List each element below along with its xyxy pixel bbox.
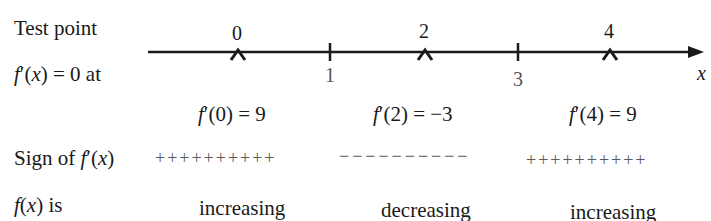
sign-interval-1: ++++++++++ [155,148,277,169]
test-point-2: 2 [419,20,429,43]
test-point-4: 4 [604,20,614,43]
sign-interval-3: ++++++++++ [526,150,648,171]
derivative-value-4: f′(4) = 9 [569,102,637,127]
test-point-0: 0 [232,22,242,45]
critical-point-1: 1 [325,64,335,87]
axis-variable-x: x [697,62,706,85]
derivative-value-0: f′(0) = 9 [198,102,266,127]
critical-point-3: 3 [513,68,523,91]
derivative-value-2: f′(2) = −3 [373,102,453,127]
behavior-interval-2: decreasing [381,198,471,221]
arrow-head-icon [688,46,704,58]
sign-interval-2: −−−−−−−−−− [339,146,471,167]
behavior-interval-1: increasing [199,196,285,221]
behavior-interval-3: increasing [570,200,656,221]
